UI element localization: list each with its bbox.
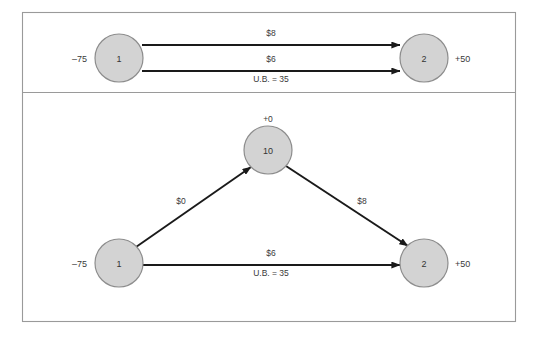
node-2-bottom-label: 2 bbox=[421, 259, 426, 269]
node-10-label: 10 bbox=[263, 146, 273, 156]
node-1-bottom-supply-label: –75 bbox=[72, 259, 87, 269]
edge-1-to-2-lower-bound-label: U.B. = 35 bbox=[253, 74, 289, 84]
node-1-bottom-label: 1 bbox=[116, 259, 121, 269]
edge-1-to-2-bottom-bound-label: U.B. = 35 bbox=[253, 268, 289, 278]
edge-1-to-2-upper-cost-label: $8 bbox=[266, 28, 276, 38]
node-2-top-label: 2 bbox=[421, 54, 426, 64]
node-2-top-supply-label: +50 bbox=[455, 54, 470, 64]
network-flow-diagram: $8 $6 U.B. = 35 1 –75 2 +50 $0 $8 $6 bbox=[0, 0, 536, 338]
node-10-supply-label: +0 bbox=[263, 114, 273, 124]
node-1-top-label: 1 bbox=[116, 54, 121, 64]
edge-10-to-2-cost-label: $8 bbox=[357, 196, 367, 206]
node-2-bottom-supply-label: +50 bbox=[455, 259, 470, 269]
edge-1-to-2-lower-cost-label: $6 bbox=[266, 54, 276, 64]
node-1-top-supply-label: –75 bbox=[72, 54, 87, 64]
edge-1-to-2-bottom-cost-label: $6 bbox=[266, 248, 276, 258]
edge-1-to-10-cost-label: $0 bbox=[176, 196, 186, 206]
figure-container: $8 $6 U.B. = 35 1 –75 2 +50 $0 $8 $6 bbox=[0, 0, 536, 338]
